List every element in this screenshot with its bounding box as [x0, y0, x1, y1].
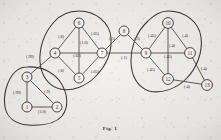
- edge-weight-5-7: (.65): [91, 69, 100, 74]
- node-9-label: 9: [145, 50, 148, 56]
- node-8-label: 8: [123, 28, 126, 34]
- cluster-outline-bottom-left: [4, 67, 66, 125]
- node-6-label: 6: [78, 20, 81, 26]
- node-3[interactable]: 3: [22, 72, 32, 82]
- node-7-label: 7: [101, 50, 104, 56]
- node-5[interactable]: 5: [74, 73, 84, 83]
- node-6[interactable]: 6: [74, 18, 84, 28]
- edge-weight-12-13: (.4): [184, 84, 190, 89]
- node-13[interactable]: 13: [202, 80, 213, 91]
- node-8[interactable]: 8: [119, 26, 129, 36]
- node-7[interactable]: 7: [97, 48, 107, 58]
- edge-weight-1-2: (1.0): [38, 109, 47, 114]
- node-10[interactable]: 10: [163, 18, 174, 29]
- edge-weight-4-5: (.8): [58, 68, 64, 73]
- edge-weight-4-6: (.8): [58, 34, 64, 39]
- edge-weight-11-13: (.4): [201, 66, 207, 71]
- edge-lines: [27, 23, 207, 107]
- edge-weight-10-12: (.4): [169, 43, 175, 48]
- figure-root: (1.0) (.99) (.9) (.99) (.8) (.8) (.65) (…: [0, 0, 221, 140]
- edge-weight-3-4: (.99): [26, 54, 35, 59]
- edge-weight-10-11: (.4): [182, 33, 188, 38]
- node-5-label: 5: [78, 75, 81, 81]
- edge-weight-9-10: (.45): [148, 33, 157, 38]
- graph-canvas: (1.0) (.99) (.9) (.99) (.8) (.8) (.65) (…: [0, 0, 221, 140]
- edge-weight-6-5: (1.0): [80, 40, 89, 45]
- node-3-label: 3: [26, 74, 29, 80]
- node-4[interactable]: 4: [50, 48, 60, 58]
- node-11-label: 11: [188, 50, 193, 56]
- edge-weight-7-8: (.5): [109, 36, 115, 41]
- node-12[interactable]: 12: [163, 74, 174, 85]
- edge-weight-9-11: (.45): [164, 54, 173, 59]
- node-2[interactable]: 2: [52, 102, 62, 112]
- edge-weight-9-12: (.45): [147, 67, 156, 72]
- node-1-label: 1: [26, 104, 29, 110]
- edge-weight-7-9: (.1): [121, 55, 127, 60]
- edge-weight-6-7: (.65): [91, 31, 100, 36]
- node-12-label: 12: [165, 76, 171, 82]
- node-11[interactable]: 11: [185, 48, 196, 59]
- edge-weight-4-7: (.65): [73, 53, 82, 58]
- node-10-label: 10: [165, 20, 171, 26]
- edge-weight-1-3: (.99): [13, 90, 22, 95]
- figure-caption: Fig. 1: [103, 126, 117, 131]
- edge-2-3: [27, 77, 57, 107]
- edge-6-7: [79, 23, 102, 53]
- node-9[interactable]: 9: [141, 48, 151, 58]
- node-1[interactable]: 1: [22, 102, 32, 112]
- edge-weight-2-3: (.9): [44, 89, 50, 94]
- edge-weight-8-9: (.5): [134, 36, 140, 41]
- node-2-label: 2: [56, 104, 59, 110]
- node-13-label: 13: [204, 82, 210, 88]
- node-4-label: 4: [54, 50, 57, 56]
